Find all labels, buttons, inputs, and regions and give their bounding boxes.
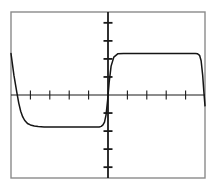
square-wave-chart-svg: [0, 0, 215, 190]
oscilloscope-plot-panel: [0, 0, 215, 190]
